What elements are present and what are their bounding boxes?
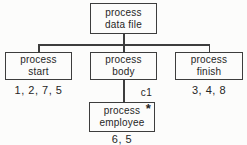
node-process-data-file: process data file xyxy=(90,3,157,34)
node-process-employee: * process employee xyxy=(89,102,155,132)
node-process-finish-label: process finish xyxy=(191,54,227,78)
sequence-numbers-start: 1, 2, 7, 5 xyxy=(5,84,72,96)
sequence-numbers-finish: 3, 4, 8 xyxy=(175,84,243,96)
iteration-marker: * xyxy=(146,102,151,115)
structure-chart-diagram: process data file process start process … xyxy=(0,0,247,145)
node-process-finish: process finish xyxy=(175,52,243,80)
connector-body-stub xyxy=(123,44,125,52)
connector-body-to-employee xyxy=(123,80,125,102)
sequence-numbers-employee: 6, 5 xyxy=(89,133,155,145)
connector-root-stub xyxy=(123,34,125,44)
node-process-start: process start xyxy=(5,52,72,80)
node-process-body-label: process body xyxy=(105,54,141,78)
node-process-data-file-label: process data file xyxy=(105,7,142,31)
connector-start-stub xyxy=(38,44,40,52)
node-process-start-label: process start xyxy=(20,54,56,78)
condition-label-c1: c1 xyxy=(130,87,152,99)
connector-finish-stub xyxy=(209,44,211,52)
node-process-employee-label: process employee xyxy=(100,105,145,129)
node-process-body: process body xyxy=(90,52,157,80)
